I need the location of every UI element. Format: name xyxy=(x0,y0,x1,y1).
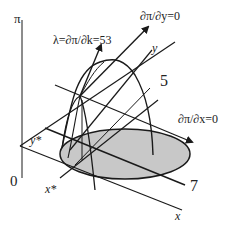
constraint-label-7: 7 xyxy=(190,178,198,194)
origin-label: 0 xyxy=(10,174,18,189)
dpi-dy-label: ∂π/∂y=0 xyxy=(140,10,180,22)
pi-axis-label: π xyxy=(14,12,21,25)
y-axis-label: y xyxy=(152,42,157,54)
lambda-arrow xyxy=(80,45,101,96)
base-ellipse xyxy=(60,129,190,179)
x-star-label: x* xyxy=(45,183,56,195)
constraint-label-5: 5 xyxy=(160,73,168,89)
lambda-label: λ=∂π/∂k=53 xyxy=(53,34,112,46)
x-axis-label: x xyxy=(175,210,180,222)
dpi-dx-label: ∂π/∂x=0 xyxy=(178,113,218,125)
y-star-label: y* xyxy=(30,134,41,146)
